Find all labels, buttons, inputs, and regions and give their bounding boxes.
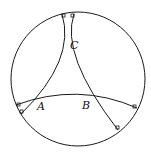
poincare-disk-diagram: C A B xyxy=(0,0,151,157)
boundary-circle xyxy=(11,12,145,146)
geodesic-ab xyxy=(16,94,137,108)
geodesic-cb xyxy=(71,14,118,130)
geodesic-ca xyxy=(21,14,65,114)
vertex-label-a: A xyxy=(36,100,45,113)
vertex-label-c: C xyxy=(70,39,79,52)
vertex-label-b: B xyxy=(81,99,90,112)
